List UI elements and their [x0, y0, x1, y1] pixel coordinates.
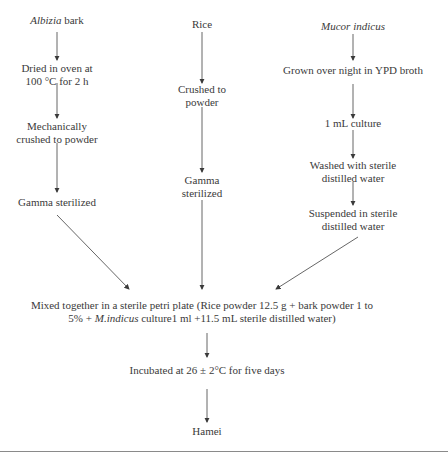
- step-rice: Rice: [192, 18, 212, 31]
- step-incubated: Incubated at 26 ± 2°C for five days: [130, 364, 285, 377]
- step-line: crushed to powder: [16, 133, 97, 146]
- species-name: Albizia: [30, 14, 61, 26]
- step-line: sterilized: [182, 187, 222, 200]
- bottom-divider: [0, 451, 448, 452]
- species-name: M.indicus: [95, 312, 139, 324]
- step-hamei: Hamei: [192, 425, 221, 438]
- arrow-mucor-merge: [276, 237, 358, 289]
- step-line: 1 mL culture: [325, 117, 381, 130]
- step-mechanically-crushed: Mechanically crushed to powder: [16, 120, 97, 146]
- step-albizia-gamma-sterilized: Gamma sterilized: [18, 196, 96, 209]
- species-name: Mucor indicus: [321, 20, 385, 32]
- arrow-albizia-merge: [57, 215, 129, 289]
- step-line: Crushed to: [178, 83, 226, 96]
- step-mucor-indicus: Mucor indicus: [321, 20, 385, 33]
- step-line: Washed with sterile: [310, 159, 396, 172]
- step-crushed-to-powder: Crushed to powder: [178, 83, 226, 109]
- text-segment: 5% +: [68, 312, 94, 324]
- step-albizia-bark: Albizia bark: [30, 14, 83, 27]
- step-line: Incubated at 26 ± 2°C for five days: [130, 364, 285, 377]
- step-suspended: Suspended in sterile distilled water: [309, 207, 398, 233]
- step-rice-gamma-sterilized: Gamma sterilized: [182, 174, 222, 200]
- step-line: powder: [178, 96, 226, 109]
- step-mixed-together: Mixed together in a sterile petri plate …: [31, 299, 373, 325]
- step-line: distilled water: [310, 172, 396, 185]
- step-line: 5% + M.indicus culture1 ml +11.5 mL ster…: [31, 312, 373, 325]
- text-segment: culture1 ml +11.5 mL sterile distilled w…: [138, 312, 335, 324]
- step-1ml-culture: 1 mL culture: [325, 117, 381, 130]
- step-line: Hamei: [192, 425, 221, 438]
- step-line: distilled water: [309, 220, 398, 233]
- step-line: 100 °C for 2 h: [21, 75, 92, 88]
- step-line: Mixed together in a sterile petri plate …: [31, 299, 373, 312]
- step-line: Rice: [192, 18, 212, 31]
- step-line: Suspended in sterile: [309, 207, 398, 220]
- step-grown-overnight: Grown over night in YPD broth: [283, 64, 423, 77]
- step-line: Gamma sterilized: [18, 196, 96, 209]
- step-line: Gamma: [182, 174, 222, 187]
- step-line: Grown over night in YPD broth: [283, 64, 423, 77]
- step-line: Dried in oven at: [21, 62, 92, 75]
- step-line: Mechanically: [16, 120, 97, 133]
- step-washed: Washed with sterile distilled water: [310, 159, 396, 185]
- step-label: bark: [61, 14, 83, 26]
- step-dried-in-oven: Dried in oven at 100 °C for 2 h: [21, 62, 92, 88]
